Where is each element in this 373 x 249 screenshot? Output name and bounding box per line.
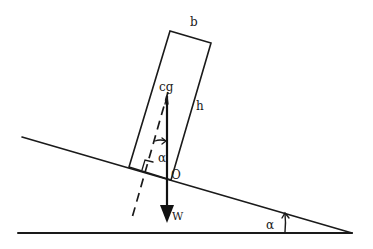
- incline-line: [22, 137, 352, 233]
- label-w: W: [172, 210, 184, 223]
- label-h: h: [196, 99, 204, 113]
- label-pivot-o: O: [171, 168, 181, 182]
- incline-angle-arc: [285, 214, 286, 232]
- label-b: b: [190, 15, 198, 29]
- label-alpha-incline: α: [266, 218, 274, 232]
- label-cg: cg: [159, 80, 174, 94]
- incline-tipping-diagram: b h cg α O W α: [0, 0, 373, 249]
- label-alpha-block: α: [158, 151, 166, 165]
